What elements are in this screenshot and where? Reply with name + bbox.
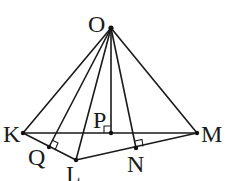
- label-L: L: [66, 161, 81, 181]
- label-M: M: [201, 121, 222, 147]
- edge-ON: [111, 28, 136, 148]
- label-N: N: [127, 151, 144, 177]
- point-M: [195, 131, 199, 135]
- label-P: P: [93, 107, 106, 133]
- point-P: [109, 131, 113, 135]
- edge-OM: [111, 28, 197, 133]
- point-K: [21, 131, 25, 135]
- label-O: O: [88, 11, 105, 37]
- point-O: [108, 25, 113, 30]
- point-Q: [47, 145, 51, 149]
- pyramid-diagram: O K M P Q L N: [0, 0, 226, 181]
- point-N: [134, 146, 138, 150]
- label-K: K: [3, 121, 21, 147]
- label-Q: Q: [28, 144, 45, 170]
